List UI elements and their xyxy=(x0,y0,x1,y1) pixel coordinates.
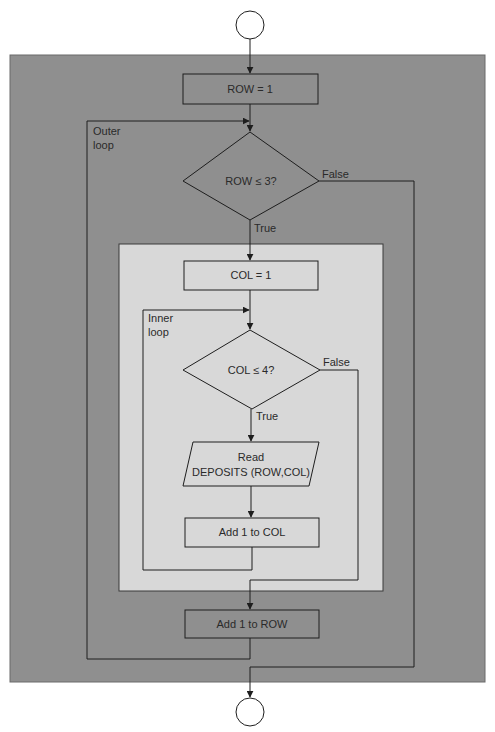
row-check-label: ROW ≤ 3? xyxy=(225,175,276,187)
end-terminal xyxy=(236,698,264,726)
col-init-box: COL = 1 xyxy=(184,261,318,290)
outer-loop-label-line1: Outer xyxy=(93,125,121,137)
row-check-true-label: True xyxy=(254,222,276,234)
row-check-false-label: False xyxy=(322,168,349,180)
add-row-box: Add 1 to ROW xyxy=(185,610,319,638)
col-check-true-label: True xyxy=(256,410,278,422)
flowchart-canvas: ROW = 1 Outer loop ROW ≤ 3? False True C… xyxy=(0,0,495,732)
add-col-box: Add 1 to COL xyxy=(185,518,319,547)
col-check-false-label: False xyxy=(323,356,350,368)
add-row-label: Add 1 to ROW xyxy=(217,618,289,630)
row-init-label: ROW = 1 xyxy=(227,83,273,95)
col-init-label: COL = 1 xyxy=(231,269,272,281)
start-terminal xyxy=(236,11,264,39)
col-check-label: COL ≤ 4? xyxy=(228,364,275,376)
outer-loop-label-line2: loop xyxy=(93,139,114,151)
inner-loop-label-line2: loop xyxy=(148,326,169,338)
inner-loop-label-line1: Inner xyxy=(148,312,173,324)
read-deposits-line2: DEPOSITS (ROW,COL) xyxy=(192,466,310,478)
read-deposits-line1: Read xyxy=(238,451,264,463)
read-deposits-io: Read DEPOSITS (ROW,COL) xyxy=(183,442,319,486)
add-col-label: Add 1 to COL xyxy=(219,526,286,538)
row-init-box: ROW = 1 xyxy=(183,74,318,104)
